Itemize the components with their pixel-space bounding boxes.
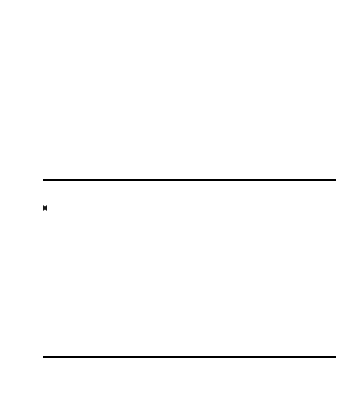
chart-panel-earthquake-frequency [0, 0, 349, 190]
plot-area-bottom [43, 205, 336, 357]
plot-area-top [43, 14, 336, 180]
x-axis-tickmarks [43, 357, 336, 387]
bar-series-earthquakes [43, 14, 336, 180]
bar-series-waste-injected [43, 205, 336, 357]
annotation-arrowhead-right [43, 205, 47, 211]
axis-baseline-top [43, 179, 336, 181]
earthquake-waste-figure [0, 0, 349, 408]
x-axis [43, 357, 336, 408]
